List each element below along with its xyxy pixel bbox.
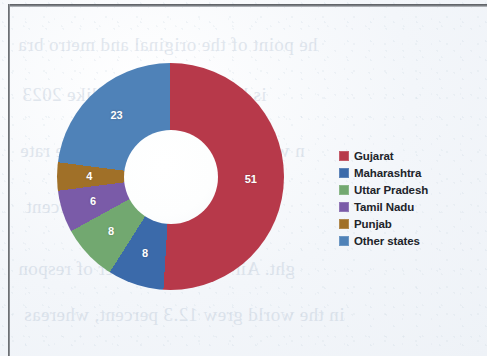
page-border-left: [8, 4, 10, 356]
slice-value-label: 8: [108, 225, 114, 237]
legend-swatch-icon: [339, 151, 349, 161]
legend-item-label: Uttar Pradesh: [354, 184, 428, 196]
slice-value-label: 23: [110, 109, 122, 121]
chart-legend: GujaratMaharashtraUttar PradeshTamil Nad…: [339, 148, 428, 248]
slice-value-label: 51: [245, 173, 257, 185]
bleed-through-text: in the world grew 12.3 percent, whereas: [24, 304, 345, 326]
bleed-through-text: he point of the original and metro bra: [18, 34, 318, 56]
legend-item-gujarat[interactable]: Gujarat: [339, 148, 428, 163]
slice-value-label: 6: [90, 195, 96, 207]
legend-item-label: Tamil Nadu: [354, 201, 414, 213]
legend-item-maharashtra[interactable]: Maharashtra: [339, 165, 428, 180]
slice-value-label: 8: [142, 247, 148, 259]
page-border-top: [8, 4, 487, 7]
legend-swatch-icon: [339, 219, 349, 229]
legend-item-label: Maharashtra: [354, 167, 421, 179]
legend-swatch-icon: [339, 236, 349, 246]
legend-item-tamil-nadu[interactable]: Tamil Nadu: [339, 199, 428, 214]
legend-item-punjab[interactable]: Punjab: [339, 216, 428, 231]
legend-swatch-icon: [339, 185, 349, 195]
legend-item-label: Punjab: [354, 218, 392, 230]
donut-chart: 51886423: [57, 63, 284, 290]
slice-value-label: 4: [86, 170, 92, 182]
scanned-page: he point of the original and metro bra i…: [0, 0, 487, 356]
legend-item-other-states[interactable]: Other states: [339, 233, 428, 248]
legend-item-label: Gujarat: [354, 150, 394, 162]
legend-swatch-icon: [339, 202, 349, 212]
donut-center-hole: [124, 130, 218, 224]
legend-swatch-icon: [339, 168, 349, 178]
legend-item-label: Other states: [354, 235, 420, 247]
legend-item-uttar-pradesh[interactable]: Uttar Pradesh: [339, 182, 428, 197]
